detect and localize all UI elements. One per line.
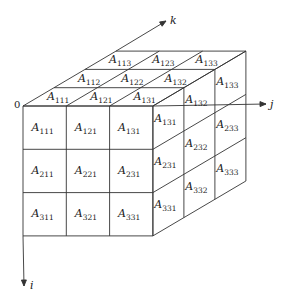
i-axis-label: i <box>30 279 34 292</box>
cell-label-a231: A231 <box>117 164 140 179</box>
cell-label-a232: A232 <box>184 137 207 152</box>
cell-label-a331: A331 <box>117 207 140 222</box>
cell-label-a332: A332 <box>184 180 207 195</box>
j-axis-arrow <box>153 104 266 106</box>
cell-label-a133: A133 <box>195 53 218 68</box>
k-axis-label: k <box>170 14 177 27</box>
cell-labels: A111A121A131A211A221A231A311A321A331A113… <box>31 53 239 222</box>
k-axis-arrow <box>116 21 166 51</box>
k-axis-arrow-head <box>160 21 166 26</box>
cell-label-a233: A233 <box>215 118 238 133</box>
cell-label-a211: A211 <box>31 164 54 179</box>
array-3d-diagram: jik0 A111A121A131A211A221A231A311A321A33… <box>0 0 288 304</box>
cell-label-a131: A131 <box>153 112 176 127</box>
cell-label-a123: A123 <box>151 53 174 68</box>
cell-label-a333: A333 <box>215 162 238 177</box>
j-axis-label: j <box>267 98 274 111</box>
cell-label-a112: A112 <box>77 72 100 87</box>
cell-label-a111: A111 <box>46 90 69 105</box>
cell-label-a321: A321 <box>74 207 97 222</box>
cell-label-a121: A121 <box>74 121 97 136</box>
axes: jik0 <box>14 14 274 292</box>
cell-label-a132: A132 <box>164 72 187 87</box>
cell-label-a221: A221 <box>74 164 97 179</box>
cell-label-a113: A113 <box>108 53 131 68</box>
cell-label-a311: A311 <box>31 207 54 222</box>
cell-label-a132: A132 <box>184 93 207 108</box>
cell-label-a131: A131 <box>117 121 140 136</box>
j-axis-arrow-head <box>260 102 266 107</box>
cell-label-a121: A121 <box>89 90 112 105</box>
diagram-canvas: jik0 A111A121A131A211A221A231A311A321A33… <box>0 0 288 304</box>
cell-label-a133: A133 <box>215 75 238 90</box>
cell-label-a111: A111 <box>31 121 54 136</box>
origin-label: 0 <box>14 99 20 110</box>
i-axis-arrow-head <box>21 280 26 286</box>
i-axis-arrow <box>23 236 24 286</box>
cell-label-a331: A331 <box>153 198 176 213</box>
cell-label-a122: A122 <box>120 72 143 87</box>
cell-label-a231: A231 <box>153 155 176 170</box>
cell-label-a131: A131 <box>133 90 156 105</box>
